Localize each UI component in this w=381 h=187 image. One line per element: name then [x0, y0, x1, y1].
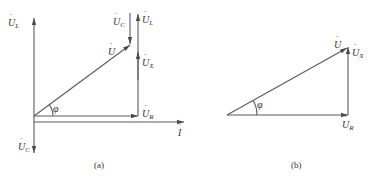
phasor-diagrams: UL · UC · UC · UL · U · UX · UR · I · φ … — [0, 0, 381, 187]
label-phi-a: φ — [53, 103, 59, 114]
dot-ul-axis: · — [10, 10, 13, 19]
dot-ul-right: · — [144, 7, 147, 16]
dot-uc-top: · — [115, 9, 118, 18]
diagram-a: UL · UC · UC · UL · U · UX · UR · I · φ … — [8, 7, 184, 170]
dot-ux-b: · — [354, 40, 357, 49]
u-phasor — [34, 45, 130, 116]
caption-a: (a) — [94, 160, 104, 170]
dot-u: · — [110, 39, 113, 48]
dot-uc-axis: · — [20, 134, 23, 143]
u-phasor-b — [227, 48, 347, 115]
caption-b: (b) — [291, 160, 302, 170]
dot-ur-b: · — [344, 112, 347, 121]
dot-u-b: · — [336, 32, 339, 41]
label-phi-b: φ — [257, 99, 263, 110]
dot-i: · — [179, 120, 182, 129]
dot-ur: · — [144, 101, 147, 110]
dot-ux: · — [144, 50, 147, 59]
diagram-b: U · UX · UR · φ (b) — [227, 32, 364, 170]
